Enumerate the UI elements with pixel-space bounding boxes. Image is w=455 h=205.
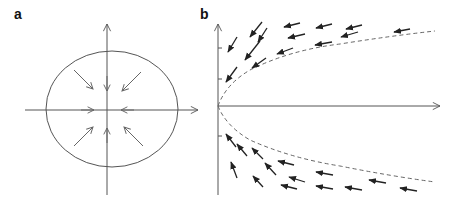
panel-b-separatrix-upper — [218, 31, 435, 106]
panel-b-arrows-upper — [226, 22, 410, 82]
panel-b — [218, 22, 440, 195]
panel-b-separatrix-lower — [218, 106, 435, 182]
phase-portraits — [0, 0, 455, 205]
panel-b-y-ticks — [218, 48, 222, 136]
panel-a-arrows — [74, 70, 143, 146]
panel-a — [25, 24, 198, 195]
panel-a-ellipse — [46, 51, 178, 167]
